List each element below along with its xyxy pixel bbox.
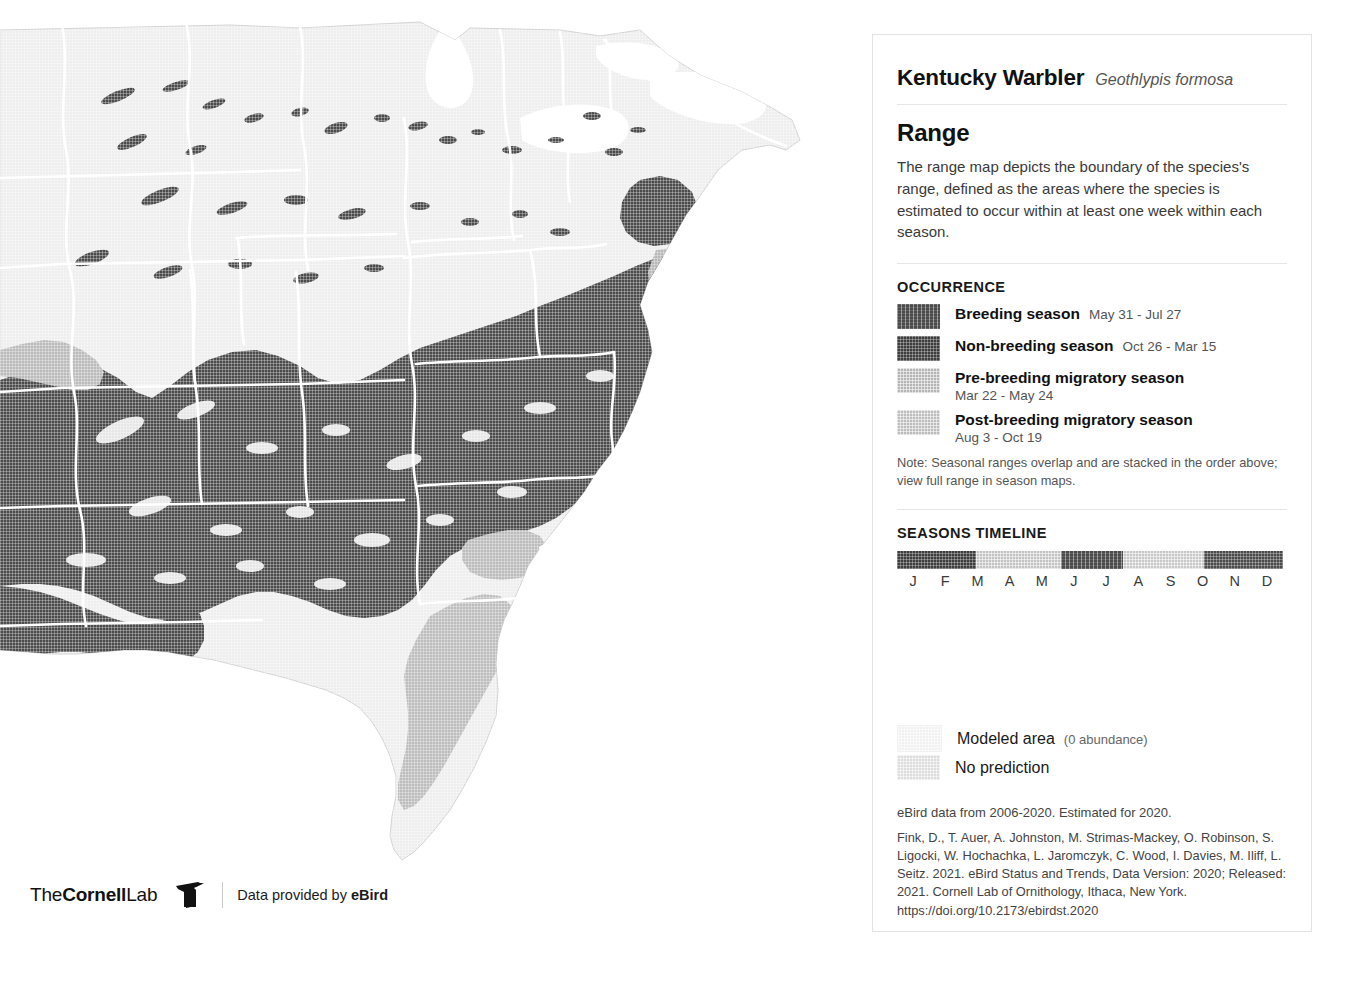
cornell-bird-icon: [172, 880, 206, 910]
citation-data-line: eBird data from 2006-2020. Estimated for…: [897, 805, 1291, 820]
timeline-heading: SEASONS TIMELINE: [897, 525, 1287, 541]
ebird-brand: eBird: [351, 887, 388, 903]
cornell-lab-lab: Lab: [126, 884, 157, 905]
aux-sub-modeled-area: (0 abundance): [1064, 732, 1148, 747]
timeline-segment-3: [1123, 551, 1204, 569]
occurrence-note: Note: Seasonal ranges overlap and are st…: [897, 454, 1287, 489]
legend-dates-breeding: May 31 - Jul 27: [1089, 307, 1181, 322]
timeline-month-1: F: [929, 573, 961, 589]
timeline-month-9: O: [1187, 573, 1219, 589]
legend-row-non-breeding[interactable]: Non-breeding season Oct 26 - Mar 15: [897, 336, 1287, 361]
ebird-attribution: Data provided by eBird: [237, 887, 388, 903]
species-info-panel: Kentucky Warbler Geothlypis formosa Rang…: [872, 34, 1312, 932]
aux-label-no-prediction: No prediction: [955, 759, 1049, 777]
seasons-timeline-months: JFMAMJJASOND: [897, 573, 1283, 589]
legend-label-post-breeding-migration: Post-breeding migratory season: [955, 411, 1193, 429]
occurrence-heading: OCCURRENCE: [897, 279, 1287, 295]
timeline-divider: [897, 509, 1287, 510]
header-divider: [897, 104, 1287, 105]
legend-label-breeding: Breeding season: [955, 305, 1080, 323]
range-section-title: Range: [897, 119, 1287, 147]
timeline-month-8: S: [1154, 573, 1186, 589]
timeline-month-11: D: [1251, 573, 1283, 589]
timeline-month-7: A: [1122, 573, 1154, 589]
legend-row-breeding[interactable]: Breeding season May 31 - Jul 27: [897, 304, 1287, 329]
timeline-month-3: A: [994, 573, 1026, 589]
species-scientific-name: Geothlypis formosa: [1095, 71, 1233, 89]
occurrence-divider: [897, 263, 1287, 264]
timeline-month-2: M: [961, 573, 993, 589]
timeline-month-4: M: [1026, 573, 1058, 589]
seasons-timeline-bar[interactable]: [897, 551, 1283, 569]
cornell-lab-the: The: [30, 884, 62, 905]
legend-dates-post-breeding-migration: Aug 3 - Oct 19: [955, 430, 1193, 445]
aux-row-modeled-area[interactable]: Modeled area (0 abundance): [897, 725, 1297, 752]
swatch-non-breeding: [897, 336, 940, 361]
swatch-breeding: [897, 304, 940, 329]
map-attribution: TheCornellLab Data provided by eBird: [30, 880, 388, 910]
range-map-canvas[interactable]: [0, 0, 860, 940]
citation-reference: Fink, D., T. Auer, A. Johnston, M. Strim…: [897, 829, 1291, 920]
timeline-segment-1: [976, 551, 1061, 569]
aux-label-modeled-area: Modeled area: [957, 730, 1055, 748]
legend-row-pre-breeding-migration[interactable]: Pre-breeding migratory season Mar 22 - M…: [897, 368, 1287, 403]
timeline-month-5: J: [1058, 573, 1090, 589]
timeline-month-10: N: [1219, 573, 1251, 589]
cornell-lab-cornell: Cornell: [62, 884, 126, 905]
timeline-month-0: J: [897, 573, 929, 589]
citation-block: eBird data from 2006-2020. Estimated for…: [897, 805, 1291, 920]
swatch-no-prediction: [897, 755, 940, 780]
ebird-attribution-prefix: Data provided by: [237, 887, 351, 903]
species-common-name: Kentucky Warbler: [897, 65, 1084, 91]
legend-label-pre-breeding-migration: Pre-breeding migratory season: [955, 369, 1184, 387]
timeline-segment-2: [1061, 551, 1123, 569]
timeline-month-6: J: [1090, 573, 1122, 589]
range-section-description: The range map depicts the boundary of th…: [897, 156, 1287, 243]
swatch-post-breeding-migration: [897, 410, 940, 435]
species-header: Kentucky Warbler Geothlypis formosa: [897, 65, 1287, 91]
legend-dates-pre-breeding-migration: Mar 22 - May 24: [955, 388, 1184, 403]
legend-row-post-breeding-migration[interactable]: Post-breeding migratory season Aug 3 - O…: [897, 410, 1287, 445]
legend-dates-non-breeding: Oct 26 - Mar 15: [1122, 339, 1216, 354]
cornell-lab-wordmark: TheCornellLab: [30, 884, 157, 906]
attribution-divider: [222, 882, 223, 908]
range-map[interactable]: TheCornellLab Data provided by eBird: [0, 0, 860, 990]
swatch-modeled-area: [897, 725, 942, 752]
swatch-pre-breeding-migration: [897, 368, 940, 393]
auxiliary-legend: Modeled area (0 abundance) No prediction: [897, 725, 1297, 783]
timeline-segment-4: [1204, 551, 1283, 569]
aux-row-no-prediction[interactable]: No prediction: [897, 755, 1297, 780]
legend-label-non-breeding: Non-breeding season: [955, 337, 1113, 355]
timeline-segment-0: [897, 551, 976, 569]
